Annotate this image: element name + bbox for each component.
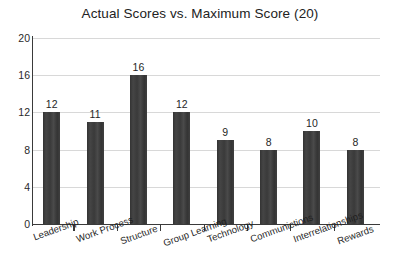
y-axis-tick-labels: 048121620 [0, 0, 30, 276]
y-axis-tick-label: 20 [2, 33, 30, 44]
y-axis-tick-label: 0 [2, 219, 30, 230]
bar-value-label: 16 [125, 62, 151, 73]
bar-chart: Actual Scores vs. Maximum Score (20) 048… [0, 0, 400, 276]
bar-value-label: 8 [342, 137, 368, 148]
bar[interactable] [130, 75, 147, 224]
bar[interactable] [303, 131, 320, 224]
bar-value-label: 12 [169, 99, 195, 110]
bar[interactable] [217, 140, 234, 224]
y-axis-line [32, 36, 33, 226]
bar-value-label: 12 [39, 99, 65, 110]
bar-value-label: 8 [256, 137, 282, 148]
bar[interactable] [260, 150, 277, 224]
bar[interactable] [43, 112, 60, 224]
bar-value-label: 10 [299, 118, 325, 129]
y-axis-tick-label: 16 [2, 70, 30, 81]
chart-title: Actual Scores vs. Maximum Score (20) [0, 6, 400, 21]
gridline [33, 38, 380, 39]
gridline [33, 150, 380, 151]
bar[interactable] [87, 122, 104, 224]
y-axis-tick-label: 4 [2, 182, 30, 193]
bar-value-label: 9 [212, 127, 238, 138]
x-axis-tick-mark [160, 224, 161, 231]
gridline [33, 187, 380, 188]
gridline [33, 75, 380, 76]
y-axis-tick-label: 12 [2, 107, 30, 118]
y-axis-tick-label: 8 [2, 144, 30, 155]
plot-area [33, 38, 380, 224]
bar[interactable] [173, 112, 190, 224]
bar-value-label: 11 [82, 109, 108, 120]
